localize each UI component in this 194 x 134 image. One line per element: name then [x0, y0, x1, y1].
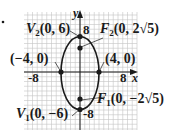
vertex-v1-dot	[77, 107, 82, 112]
co-vertex-right-dot	[96, 69, 101, 74]
focus-f1-dot	[77, 96, 82, 101]
y-axis-label: y	[71, 6, 79, 20]
label-f2: F2(0, 2√5)	[99, 21, 159, 38]
label-f1: F1(0, −2√5)	[96, 91, 164, 108]
tick-y-pos: 8	[83, 22, 90, 37]
label-left-covertex: (−4, 0)	[10, 51, 49, 67]
tick-x-neg: -8	[28, 70, 39, 85]
label-right-covertex: (4, 0)	[105, 51, 136, 67]
label-v1: V1(0, −6)	[16, 106, 68, 123]
co-vertex-left-dot	[58, 69, 63, 74]
x-axis-label: x	[131, 71, 138, 85]
ellipse-diagram: y x 8 -8 -8 8 V2(0, 6) F2(0, 2√5) (−4, 0…	[0, 0, 194, 134]
focus-f2-dot	[77, 45, 82, 50]
bullet-dot	[2, 21, 5, 24]
vertex-v2-dot	[77, 34, 82, 39]
tick-x-pos: 8	[120, 70, 127, 85]
label-v2: V2(0, 6)	[26, 21, 71, 38]
tick-y-neg: -8	[83, 106, 94, 121]
